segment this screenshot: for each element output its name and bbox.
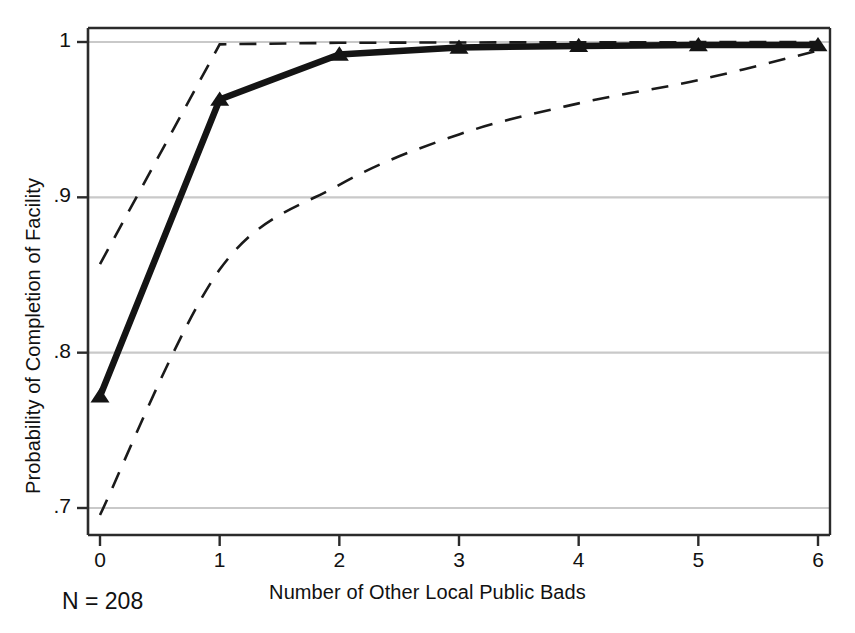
x-tick-label-1: 1: [195, 548, 245, 572]
y-tick-label-dot8: .8: [25, 339, 71, 363]
x-axis-ticks: [100, 535, 818, 546]
x-tick-label-5: 5: [673, 548, 723, 572]
x-tick-label-0: 0: [75, 548, 125, 572]
y-axis-title: Probability of Completion of Facility: [22, 178, 45, 494]
x-tick-label-3: 3: [434, 548, 484, 572]
plot-area-background: [88, 28, 830, 535]
x-tick-label-4: 4: [554, 548, 604, 572]
x-tick-label-2: 2: [314, 548, 364, 572]
x-tick-label-6: 6: [793, 548, 843, 572]
y-tick-label-dot7: .7: [25, 494, 71, 518]
probability-of-completion-line-chart: [0, 0, 855, 633]
chart-figure: Probability of Completion of Facility Nu…: [0, 0, 855, 633]
y-axis-ticks: [77, 42, 88, 508]
sample-size-annotation: N = 208: [62, 588, 143, 615]
y-tick-label-1: 1: [25, 28, 71, 52]
y-tick-label-dot9: .9: [25, 183, 71, 207]
